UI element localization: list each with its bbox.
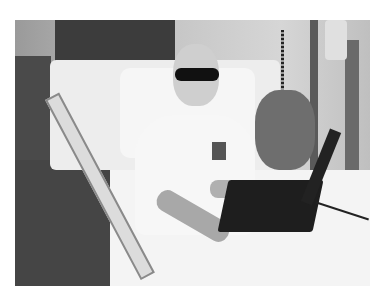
floor (15, 160, 125, 286)
medical-equipment (15, 56, 51, 166)
iv-bag (325, 20, 347, 60)
photograph (15, 20, 370, 286)
stuffed-animal (255, 90, 315, 170)
shirt-logo (212, 142, 226, 160)
sunglasses-icon (175, 68, 219, 81)
